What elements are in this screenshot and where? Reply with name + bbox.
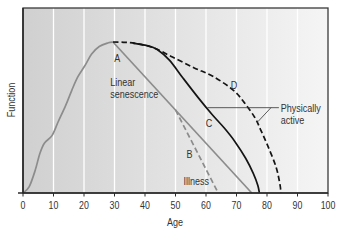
x-tick-label: 10 [49,199,59,211]
annotation-senescence: senescence [110,88,158,100]
x-tick-label: 100 [321,199,336,211]
x-tick-label: 0 [21,199,26,211]
function-vs-age-chart: ALinearsenescenceBIllnessCDPhysicallyact… [0,0,338,234]
x-tick-label: 60 [201,199,211,211]
x-tick-label: 90 [293,199,303,211]
annotation-d: D [231,79,238,91]
x-tick-label: 30 [110,199,120,211]
x-tick-label: 50 [171,199,181,211]
x-axis-label: Age [167,216,183,228]
x-tick-label: 20 [79,199,89,211]
x-tick-label: 40 [140,199,150,211]
annotation-illness: Illness [183,175,209,187]
annotation-b: B [186,149,192,161]
x-tick-label: 70 [232,199,242,211]
x-axis-ticks: 0102030405060708090100 [21,193,336,211]
annotation-c: C [206,118,213,130]
annotation-physically: Physically [281,102,321,114]
annotation-active: active [281,114,305,126]
annotation-a: A [114,52,120,64]
x-tick-label: 80 [262,199,272,211]
annotation-linear: Linear [110,76,136,88]
y-axis-label: Function [5,83,17,118]
